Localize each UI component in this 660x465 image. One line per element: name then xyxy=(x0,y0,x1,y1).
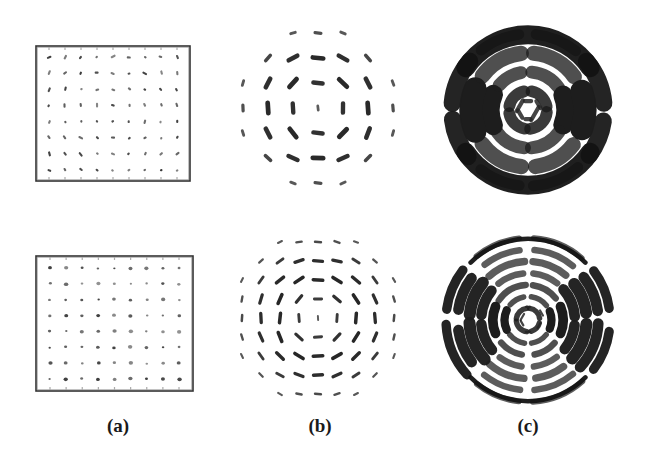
mesh-frame-border xyxy=(36,46,190,181)
orientation-field-fine-svg xyxy=(222,226,418,416)
panel-b-bottom-orientation-field-fine xyxy=(222,226,418,416)
panel-c-top-fringe-pattern-coarse xyxy=(436,18,626,206)
caption-c: (c) xyxy=(508,415,548,437)
grid-mesh-coarse-svg xyxy=(20,32,210,202)
figure-canvas: (a) (b) (c) xyxy=(0,0,660,465)
panel-c-bottom-fringe-pattern-fine xyxy=(436,228,626,420)
dash-field-group xyxy=(240,30,395,186)
panel-a-bottom-grid-mesh-fine xyxy=(20,242,215,412)
mesh-frame-border xyxy=(36,256,193,391)
fringe-arc-group xyxy=(452,34,603,185)
caption-a: (a) xyxy=(98,415,138,437)
panel-b-top-orientation-field-coarse xyxy=(222,16,418,206)
fringe-pattern-coarse-svg xyxy=(436,18,626,206)
grid-mesh-fine-svg xyxy=(20,242,215,412)
fringe-arc-group xyxy=(446,238,609,402)
caption-b: (b) xyxy=(300,415,340,437)
dash-field-group xyxy=(240,240,397,397)
mesh-node-group xyxy=(48,258,182,390)
orientation-field-coarse-svg xyxy=(222,16,418,206)
panel-a-top-grid-mesh-coarse xyxy=(20,32,210,202)
mesh-node-group xyxy=(47,48,180,180)
fringe-pattern-fine-svg xyxy=(436,228,626,420)
